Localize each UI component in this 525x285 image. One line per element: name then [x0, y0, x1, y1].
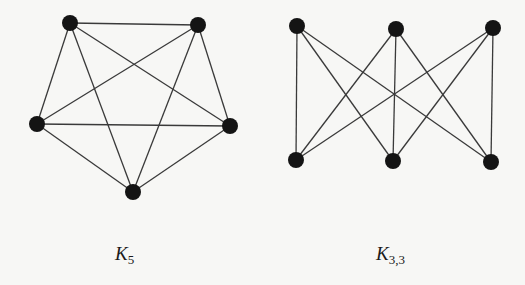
k5-label-main: K	[115, 243, 128, 264]
k5-edge	[198, 25, 230, 126]
k33-label: K3,3	[376, 244, 405, 266]
k5-edge	[70, 23, 133, 192]
k33-edge	[296, 28, 493, 160]
k33-vertex	[385, 153, 401, 169]
k5-edge	[133, 25, 198, 192]
k5-vertex	[29, 116, 45, 132]
k33-edge	[393, 28, 493, 161]
graph-canvas	[0, 0, 525, 285]
k33-vertex	[288, 152, 304, 168]
k33-edge	[491, 28, 493, 162]
k33-label-subscript: 3,3	[389, 252, 405, 267]
k33-edge	[296, 26, 297, 160]
k5-edge	[37, 124, 230, 126]
k5-edge	[133, 126, 230, 192]
k33-vertex	[485, 20, 501, 36]
k5-edge	[37, 25, 198, 124]
k5-edge	[70, 23, 198, 25]
k5-edge	[37, 23, 70, 124]
k5-label-subscript: 5	[128, 252, 135, 267]
k33-edge	[296, 29, 396, 160]
k5-edge	[37, 124, 133, 192]
k33-label-main: K	[376, 243, 389, 264]
k5-label: K5	[115, 244, 134, 266]
k5-vertex	[222, 118, 238, 134]
k5-edge	[70, 23, 230, 126]
k33-vertex	[483, 154, 499, 170]
edges-layer	[37, 23, 493, 192]
k33-vertex	[388, 21, 404, 37]
k5-vertex	[125, 184, 141, 200]
k5-vertex	[190, 17, 206, 33]
k33-vertex	[289, 18, 305, 34]
k5-vertex	[62, 15, 78, 31]
